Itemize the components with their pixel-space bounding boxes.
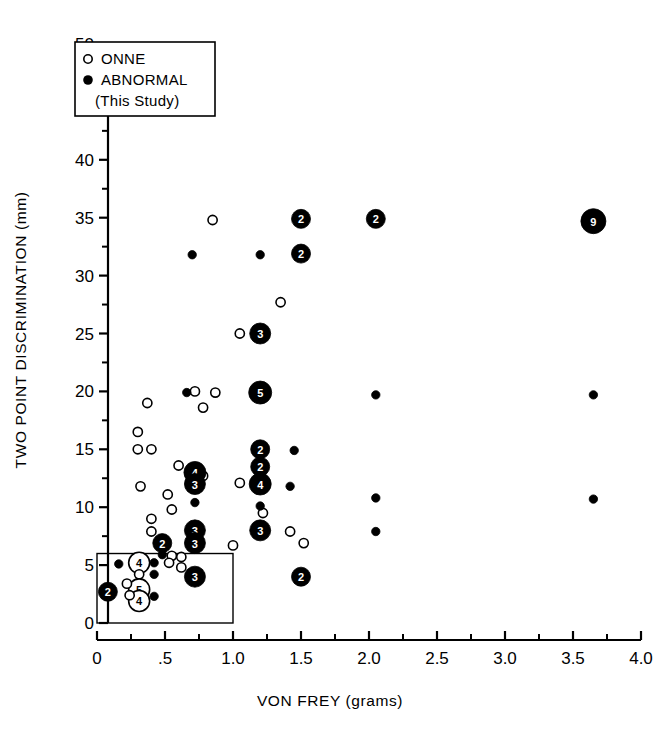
data-point-count-label: 3 (192, 538, 198, 550)
x-tick-label: 0 (92, 649, 101, 668)
legend-label-this-study: (This Study) (95, 92, 179, 109)
data-point-marker (286, 527, 295, 536)
data-point-marker (147, 445, 156, 454)
data-point-marker (191, 498, 199, 506)
data-point-marker (133, 445, 142, 454)
data-point-marker (276, 298, 285, 307)
data-point-count-label: 4 (136, 557, 143, 569)
y-tick-label: 20 (75, 382, 94, 401)
x-tick-label: 3.5 (561, 649, 585, 668)
data-point-marker (228, 541, 237, 550)
legend-marker-onne-icon (84, 55, 92, 63)
y-tick-label: 10 (75, 498, 94, 517)
data-point-marker (115, 560, 123, 568)
data-point-marker (290, 446, 298, 454)
data-point-marker (299, 538, 308, 547)
data-point-marker (256, 502, 264, 510)
data-point-marker (256, 251, 264, 259)
y-tick-label: 35 (75, 209, 94, 228)
data-point-count-label: 3 (257, 525, 263, 537)
data-point-marker (143, 398, 152, 407)
data-point-marker (372, 527, 380, 535)
data-point-marker (235, 478, 244, 487)
data-point-count-label: 4 (136, 595, 143, 607)
data-point-marker (589, 495, 597, 503)
data-point-marker (198, 403, 207, 412)
legend-marker-abnormal-icon (83, 75, 93, 85)
data-point-count-label: 2 (298, 248, 304, 260)
data-point-marker (167, 505, 176, 514)
data-point-marker (372, 391, 380, 399)
data-point-marker (235, 329, 244, 338)
data-point-marker (135, 570, 144, 579)
data-point-count-label: 2 (298, 213, 304, 225)
data-point-count-label: 2 (257, 444, 263, 456)
x-tick-label: 4.0 (629, 649, 653, 668)
data-point-marker (372, 494, 380, 502)
data-point-marker (150, 559, 158, 567)
x-tick-label: 2.5 (425, 649, 449, 668)
data-point-count-label: 2 (257, 461, 263, 473)
data-point-count-label: 5 (257, 387, 263, 399)
data-point-count-label: 3 (257, 328, 263, 340)
data-point-marker (136, 482, 145, 491)
y-tick-label: 15 (75, 440, 94, 459)
data-point-marker (133, 427, 142, 436)
x-tick-label: 3.0 (493, 649, 517, 668)
data-point-count-label: 3 (192, 571, 198, 583)
data-point-marker (211, 388, 220, 397)
data-point-count-label: 2 (298, 571, 304, 583)
data-point-marker (122, 579, 131, 588)
x-tick-label: 1.5 (289, 649, 313, 668)
data-point-marker (125, 591, 134, 600)
x-axis-title: VON FREY (grams) (257, 692, 403, 709)
x-tick-label: .5 (158, 649, 172, 668)
data-point-marker (147, 514, 156, 523)
data-point-count-label: 2 (373, 213, 379, 225)
data-point-count-label: 2 (105, 586, 111, 598)
data-point-marker (150, 592, 158, 600)
data-point-marker (183, 388, 191, 396)
data-point-marker (589, 391, 597, 399)
scatter-plot: 051015202530354045500.51.01.52.02.53.03.… (0, 0, 661, 739)
data-point-marker (164, 558, 173, 567)
y-tick-label: 30 (75, 267, 94, 286)
data-point-count-label: 2 (159, 538, 165, 550)
data-point-count-label: 3 (192, 479, 198, 491)
data-point-marker (150, 570, 158, 578)
data-point-marker (208, 215, 217, 224)
chart-canvas: 051015202530354045500.51.01.52.02.53.03.… (0, 0, 661, 739)
data-point-marker (174, 461, 183, 470)
data-point-marker (177, 563, 186, 572)
data-point-marker (188, 251, 196, 259)
x-tick-label: 1.0 (221, 649, 245, 668)
data-point-marker (147, 527, 156, 536)
y-tick-label: 40 (75, 151, 94, 170)
data-point-marker (177, 552, 186, 561)
legend: ONNE ABNORMAL (This Study) (75, 42, 215, 116)
data-point-count-label: 4 (257, 479, 264, 491)
data-point-marker (158, 550, 166, 558)
data-point-marker (190, 387, 199, 396)
x-tick-label: 2.0 (357, 649, 381, 668)
legend-label-onne: ONNE (101, 50, 146, 67)
data-point-marker (163, 490, 172, 499)
data-point-marker (286, 482, 294, 490)
y-tick-label: 5 (85, 556, 94, 575)
y-tick-label: 25 (75, 325, 94, 344)
legend-label-abnormal: ABNORMAL (101, 71, 188, 88)
data-point-count-label: 9 (590, 216, 596, 228)
y-axis-title: TWO POINT DISCRIMINATION (mm) (12, 192, 29, 469)
y-tick-label: 0 (85, 614, 94, 633)
